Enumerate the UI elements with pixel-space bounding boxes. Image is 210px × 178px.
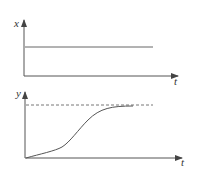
top-y-label: x — [13, 17, 19, 29]
bottom-y-label: y — [15, 87, 21, 99]
y-response-curve — [26, 106, 133, 158]
bottom-plot: y t — [15, 87, 185, 168]
step-response-diagram: x t y t — [0, 0, 210, 178]
diagram: x t y t — [0, 0, 210, 178]
top-plot: x t — [13, 17, 178, 87]
bottom-x-label: t — [181, 156, 185, 168]
top-x-label: t — [174, 75, 178, 87]
